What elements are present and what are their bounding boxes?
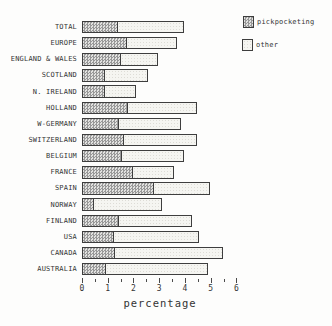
- x-axis-tick: [133, 278, 134, 283]
- stacked-bar: [82, 263, 208, 276]
- bar-segment-other: [105, 263, 208, 276]
- x-axis-tick-label: 1: [105, 284, 110, 293]
- legend-item-pickpocketing: pickpocketing: [243, 16, 314, 28]
- bar-segment-pickpocketing: [82, 118, 119, 131]
- stacked-bar: [82, 166, 174, 179]
- bar-segment-pickpocketing: [82, 166, 133, 179]
- bar-segment-other: [123, 134, 196, 147]
- stacked-bar: [82, 134, 197, 147]
- bar-row: AUSTRALIA: [0, 261, 332, 277]
- x-axis-tick: [82, 278, 83, 283]
- stacked-bar: [82, 150, 184, 163]
- bar-segment-pickpocketing: [82, 53, 121, 66]
- category-label: NORWAY: [0, 201, 82, 209]
- bar-segment-other: [132, 166, 173, 179]
- x-axis-tick-label: 4: [182, 284, 187, 293]
- bar-segment-pickpocketing: [82, 247, 115, 260]
- stacked-bar: [82, 85, 136, 98]
- x-axis-tick-label: 5: [208, 284, 213, 293]
- bar-row: CANADA: [0, 245, 332, 261]
- stacked-bar: [82, 37, 177, 50]
- legend-item-other: other: [243, 39, 314, 51]
- bar-segment-pickpocketing: [82, 231, 114, 244]
- x-axis-tick: [236, 278, 237, 283]
- category-label: AUSTRALIA: [0, 265, 82, 273]
- stacked-bar: [82, 118, 181, 131]
- bar-segment-pickpocketing: [82, 263, 106, 276]
- x-axis-tick-label: 2: [131, 284, 136, 293]
- bar-row: NORWAY: [0, 197, 332, 213]
- category-label: N. IRELAND: [0, 88, 82, 96]
- bar-segment-other: [114, 247, 222, 260]
- bar-row: HOLLAND: [0, 100, 332, 116]
- x-axis-tick-label: 0: [80, 284, 85, 293]
- bar-segment-other: [118, 215, 191, 228]
- bar-row: USA: [0, 229, 332, 245]
- bar-segment-other: [118, 118, 181, 131]
- bar-segment-pickpocketing: [82, 215, 119, 228]
- bar-segment-pickpocketing: [82, 150, 122, 163]
- category-label: USA: [0, 233, 82, 241]
- x-axis-tick: [108, 278, 109, 283]
- category-label: SPAIN: [0, 184, 82, 192]
- bar-segment-other: [113, 231, 199, 244]
- stacked-bar: [82, 231, 199, 244]
- legend-label-other: other: [256, 41, 278, 49]
- stacked-bar: [82, 182, 210, 195]
- bar-segment-other: [153, 182, 210, 195]
- x-axis-label: percentage: [82, 297, 238, 309]
- category-label: HOLLAND: [0, 104, 82, 112]
- category-label: SWITZERLAND: [0, 136, 82, 144]
- category-label: FINLAND: [0, 217, 82, 225]
- stacked-bar: [82, 53, 158, 66]
- bar-segment-other: [104, 69, 148, 82]
- legend-label-pickpocketing: pickpocketing: [257, 18, 314, 26]
- category-label: BELGIUM: [0, 152, 82, 160]
- x-axis-tick-label: 3: [157, 284, 162, 293]
- bar-segment-pickpocketing: [82, 182, 154, 195]
- bar-segment-pickpocketing: [82, 69, 105, 82]
- category-label: CANADA: [0, 249, 82, 257]
- x-axis-tick: [198, 279, 199, 282]
- bar-segment-pickpocketing: [82, 134, 124, 147]
- bar-row: W-GERMANY: [0, 116, 332, 132]
- category-label: EUROPE: [0, 39, 82, 47]
- bar-segment-other: [127, 102, 196, 115]
- category-label: ENGLAND & WALES: [0, 55, 82, 63]
- stacked-bar: [82, 21, 184, 34]
- x-axis-tick: [172, 279, 173, 282]
- x-axis-tick: [211, 278, 212, 283]
- x-axis-tick: [224, 279, 225, 282]
- category-label: SCOTLAND: [0, 71, 82, 79]
- bar-segment-other: [93, 198, 162, 211]
- legend: pickpocketing other: [243, 16, 314, 62]
- x-axis-tick: [146, 279, 147, 282]
- bar-segment-other: [126, 37, 177, 50]
- bar-segment-pickpocketing: [82, 37, 127, 50]
- bar-row: SWITZERLAND: [0, 132, 332, 148]
- x-axis-tick: [159, 278, 160, 283]
- category-label: W-GERMANY: [0, 120, 82, 128]
- category-label: FRANCE: [0, 168, 82, 176]
- other-swatch-icon: [242, 39, 253, 51]
- bar-segment-other: [104, 85, 136, 98]
- bar-row: SCOTLAND: [0, 67, 332, 83]
- stacked-bar: [82, 215, 192, 228]
- x-axis-tick: [95, 279, 96, 282]
- bar-row: BELGIUM: [0, 148, 332, 164]
- bar-row: FRANCE: [0, 164, 332, 180]
- bar-segment-other: [117, 21, 184, 34]
- bar-segment-pickpocketing: [82, 21, 118, 34]
- bar-row: FINLAND: [0, 213, 332, 229]
- x-axis-tick-label: 6: [234, 284, 239, 293]
- category-label: TOTAL: [0, 23, 82, 31]
- stacked-bar: [82, 198, 162, 211]
- stacked-bar: [82, 247, 223, 260]
- x-axis-tick: [121, 279, 122, 282]
- bar-segment-pickpocketing: [82, 85, 105, 98]
- stacked-bar: [82, 102, 197, 115]
- pickpocketing-swatch-icon: [243, 16, 254, 28]
- crime-percentage-chart: TOTALEUROPEENGLAND & WALESSCOTLANDN. IRE…: [0, 0, 332, 326]
- bar-row: N. IRELAND: [0, 84, 332, 100]
- stacked-bar: [82, 69, 148, 82]
